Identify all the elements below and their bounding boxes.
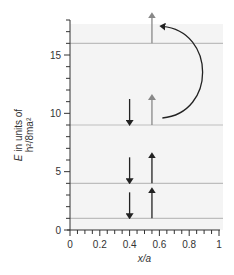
x-axis-title: x/a [137, 253, 152, 264]
y-axis-title: E in units of h²/8ma² [13, 109, 35, 161]
y-axis-title-line1: E in units of [13, 109, 24, 161]
x-tick-label: 0 [67, 239, 73, 250]
x-tick-label: 0.4 [123, 239, 137, 250]
y-tick-label: 5 [55, 166, 61, 177]
x-tick-label: 0.6 [152, 239, 166, 250]
y-axis-title-line2: h²/8ma² [24, 117, 35, 152]
y-tick-label: 15 [50, 50, 62, 61]
x-tick-label: 0.2 [93, 239, 107, 250]
x-tick-label: 0.8 [182, 239, 196, 250]
x-tick-label: 1 [216, 239, 222, 250]
y-tick-label: 10 [50, 108, 62, 119]
y-tick-label: 0 [55, 225, 61, 236]
energy-level-diagram: 05101500.20.40.60.81 x/a E in units of h… [0, 0, 234, 275]
